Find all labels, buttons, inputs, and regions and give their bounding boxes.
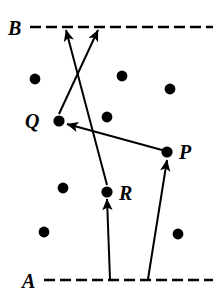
field-dot [102, 112, 113, 123]
point-p [161, 146, 172, 157]
field-dot [30, 74, 41, 85]
diagram-canvas: B A Q P R [0, 0, 219, 300]
point-r [101, 186, 112, 197]
label-A: A [22, 271, 35, 291]
field-dot [39, 227, 50, 238]
arrow-a-to-p [148, 160, 167, 279]
field-dot [117, 71, 128, 82]
arrow-p-to-q [67, 124, 162, 150]
point-q [53, 115, 64, 126]
labelled-points-group [53, 115, 172, 197]
arrow-q-to-b [59, 30, 98, 114]
label-R: R [119, 183, 132, 203]
field-dot [165, 84, 176, 95]
label-B: B [8, 18, 21, 38]
arrow-a-to-r [107, 199, 110, 279]
label-Q: Q [25, 111, 39, 131]
label-P: P [179, 142, 191, 162]
dot-field-group [30, 71, 184, 240]
field-dot [58, 183, 69, 194]
field-dot [173, 229, 184, 240]
arrows-group [59, 30, 167, 279]
